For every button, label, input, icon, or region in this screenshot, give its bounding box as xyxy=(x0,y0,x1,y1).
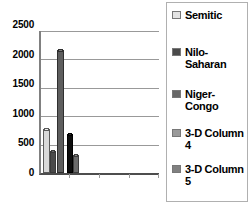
bar-group xyxy=(43,31,83,173)
legend-item-label: Semitic xyxy=(185,9,222,21)
x-axis-tick xyxy=(158,174,159,178)
legend-swatch-icon xyxy=(172,48,181,56)
x-axis-tick xyxy=(129,174,130,178)
bar-semitic xyxy=(43,129,50,173)
y-tick-label: 2500 xyxy=(13,20,34,30)
bar-3d-column-5 xyxy=(73,155,79,173)
y-tick-label: 2000 xyxy=(13,50,34,60)
legend-item-semitic[interactable]: Semitic xyxy=(172,9,246,21)
bar-top-face xyxy=(51,150,55,153)
y-axis: 2500 2000 1500 1000 500 0 xyxy=(0,25,36,173)
legend-item-3d-column-5[interactable]: 3-D Column 5 xyxy=(172,163,246,187)
legend-item-label: Niger-Congo xyxy=(185,88,246,112)
y-tick-label: 1500 xyxy=(13,79,34,89)
legend-item-niger-congo[interactable]: Niger-Congo xyxy=(172,88,246,112)
legend-swatch-icon xyxy=(172,165,181,173)
legend-swatch-icon xyxy=(172,129,181,137)
bar-chart: 2500 2000 1500 1000 500 0 xyxy=(0,0,250,205)
bar-niger-congo xyxy=(57,50,64,173)
legend-item-label: Nilo-Saharan xyxy=(185,46,246,70)
plot-area xyxy=(39,31,159,175)
bar-top-face xyxy=(68,133,72,136)
y-tick-label: 500 xyxy=(18,138,34,148)
x-axis-tick xyxy=(99,174,100,178)
legend-swatch-icon xyxy=(172,11,181,19)
legend-item-nilo-saharan[interactable]: Nilo-Saharan xyxy=(172,46,246,70)
x-axis-tick xyxy=(69,174,70,178)
bar-nilo-saharan xyxy=(50,151,56,173)
legend-item-3d-column-4[interactable]: 3-D Column 4 xyxy=(172,127,246,151)
legend-swatch-icon xyxy=(172,90,181,98)
legend-item-label: 3-D Column 5 xyxy=(185,163,246,187)
bar-top-face xyxy=(58,49,63,52)
legend-item-label: 3-D Column 4 xyxy=(185,127,246,151)
plot-region: 2500 2000 1500 1000 500 0 xyxy=(0,0,160,205)
chart-legend: Semitic Nilo-Saharan Niger-Congo 3-D Col… xyxy=(166,2,248,202)
y-tick-label: 0 xyxy=(29,168,34,178)
y-tick-label: 1000 xyxy=(13,109,34,119)
bar-top-face xyxy=(74,154,78,157)
bar-top-face xyxy=(44,128,49,131)
